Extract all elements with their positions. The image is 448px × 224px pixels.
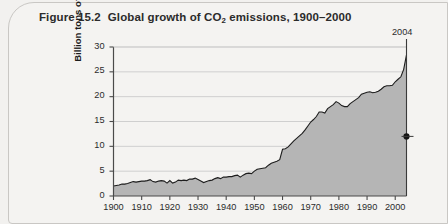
y-tick-label-10: 10 (87, 140, 105, 150)
annotation-2004-label: 2004 (392, 27, 412, 37)
y-tick-label-5: 5 (87, 165, 105, 175)
x-tick-label-2000: 2000 (378, 202, 412, 212)
y-axis-title: Billion tons of CO2 (72, 0, 86, 77)
y-tick-label-15: 15 (87, 115, 105, 125)
y-tick-label-20: 20 (87, 90, 105, 100)
area-fill (114, 55, 407, 196)
y-tick-label-0: 0 (87, 190, 105, 200)
y-tick-label-25: 25 (87, 65, 105, 75)
y-tick-label-30: 30 (87, 41, 105, 51)
